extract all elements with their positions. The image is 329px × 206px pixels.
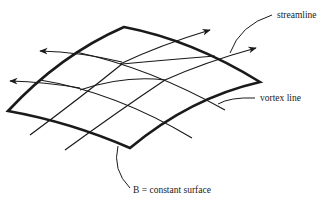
surface-diagram: streamline vortex line B = constant surf… (0, 0, 329, 206)
leader-lines (117, 15, 273, 188)
streamline-4 (165, 48, 256, 80)
streamline-3 (120, 30, 210, 64)
streamline-leader (230, 15, 272, 53)
surface-outline (8, 27, 260, 148)
vortex-leader (218, 98, 255, 104)
streamline-label: streamline (277, 10, 317, 20)
vortex-line-1 (30, 64, 122, 135)
streamline-2 (10, 81, 80, 88)
vortex-line-label: vortex line (260, 93, 301, 103)
surface-leader (117, 146, 131, 188)
surface-label: B = constant surface (133, 185, 211, 195)
